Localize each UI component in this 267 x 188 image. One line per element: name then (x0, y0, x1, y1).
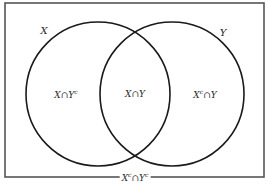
set-y-label: Y (220, 28, 227, 38)
region-label-y-only: Xc∩Y (193, 89, 216, 100)
region-text: X∩Y (54, 90, 74, 100)
complement-superscript: c (74, 88, 77, 95)
region-label-x-only: X∩Yc (54, 89, 77, 100)
region-text: X∩Y (125, 89, 145, 99)
region-label-intersection: X∩Y (125, 90, 145, 99)
set-y-circle (100, 22, 244, 166)
region-text: ∩Y (131, 173, 144, 183)
complement-superscript: c (145, 171, 148, 178)
region-label-outside: Xc∩Yc (120, 172, 151, 183)
set-x-circle (26, 22, 170, 166)
venn-diagram: X Y X∩Yc X∩Y Xc∩Y Xc∩Yc (0, 0, 267, 188)
set-x-label: X (40, 26, 47, 36)
region-text: ∩Y (203, 90, 216, 100)
